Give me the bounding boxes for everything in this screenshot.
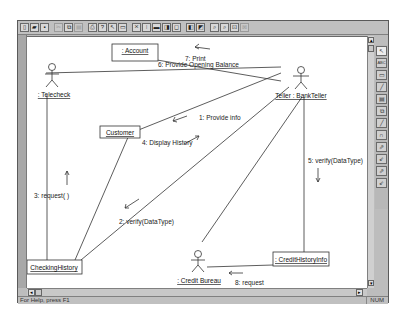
diagram-canvas[interactable]: : Account Customer CheckingHistory : Cre… bbox=[27, 36, 367, 289]
help-icon[interactable]: ? bbox=[98, 23, 107, 32]
new-file-icon[interactable]: ▯ bbox=[20, 23, 29, 32]
object-account[interactable]: : Account bbox=[112, 44, 158, 61]
class-instance-tool-icon[interactable]: ⧉ bbox=[376, 106, 387, 116]
message-arrow-2 bbox=[125, 199, 139, 208]
context-help-icon[interactable]: ↖ bbox=[108, 23, 117, 32]
collaboration-diagram: : Account Customer CheckingHistory : Cre… bbox=[27, 37, 367, 289]
svg-text:CheckingHistory: CheckingHistory bbox=[30, 264, 78, 272]
vertical-scrollbar[interactable]: ▴ ▾ bbox=[367, 36, 374, 288]
scroll-left-arrow-icon[interactable]: ◂ bbox=[28, 289, 35, 296]
message-label-5: 5: verify(DataType) bbox=[308, 157, 363, 165]
vertical-scroll-thumb[interactable] bbox=[368, 45, 374, 52]
object-checking-history[interactable]: CheckingHistory bbox=[27, 260, 82, 274]
object-link-tool-icon[interactable]: ╱ bbox=[376, 118, 387, 128]
message-label-1: 1: Provide info bbox=[199, 114, 241, 121]
cut-icon[interactable]: ✂ bbox=[54, 23, 63, 32]
svg-text:: CreditHistoryInfo: : CreditHistoryInfo bbox=[275, 256, 327, 264]
tool-palette: ↖ABC▭╱▤⧉╱∩⇗⇙⇗⇙ bbox=[375, 45, 388, 209]
next-diagram-icon[interactable]: ◩ bbox=[196, 23, 205, 32]
link-customer-checkinghistory bbox=[75, 135, 129, 260]
component-icon[interactable]: ◨ bbox=[162, 23, 171, 32]
svg-text:: Account: : Account bbox=[122, 47, 149, 54]
scroll-down-arrow-icon[interactable]: ▾ bbox=[368, 280, 374, 286]
paste-icon[interactable]: ▤ bbox=[74, 23, 83, 32]
scroll-right-arrow-icon[interactable]: ▸ bbox=[356, 289, 363, 296]
status-num-indicator: NUM bbox=[366, 297, 384, 304]
zoom-out-icon[interactable]: ⌕ bbox=[220, 23, 229, 32]
prev-diagram-icon[interactable]: ◧ bbox=[186, 23, 195, 32]
message-label-3: 3: request( ) bbox=[34, 192, 69, 200]
actor-telecheck-label: : Telecheck bbox=[38, 91, 71, 98]
message-label-2: 2: verify(DataType) bbox=[119, 218, 174, 226]
scroll-up-arrow-icon[interactable]: ▴ bbox=[368, 37, 374, 43]
browse-icon[interactable]: ▭ bbox=[118, 23, 127, 32]
actor-credit-bureau-label: : Credit Bureau bbox=[177, 277, 221, 284]
selection-tool-icon[interactable]: ↖ bbox=[376, 46, 387, 56]
link-customer-teller bbox=[136, 73, 281, 131]
message-label-6: 6: Provide Opening Balance bbox=[158, 61, 239, 69]
link-message-tool-icon[interactable]: ⇗ bbox=[376, 142, 387, 152]
object-customer[interactable]: Customer bbox=[100, 126, 140, 138]
copy-icon[interactable]: ⧉ bbox=[64, 23, 73, 32]
data-flow-tool-icon[interactable]: ⇗ bbox=[376, 166, 387, 176]
reverse-link-message-tool-icon[interactable]: ⇙ bbox=[376, 154, 387, 164]
svg-text:Customer: Customer bbox=[106, 129, 135, 136]
print-icon[interactable]: ⎙ bbox=[88, 23, 97, 32]
actor-credit-bureau[interactable] bbox=[191, 251, 205, 273]
status-help-text: For Help, press F1 bbox=[20, 297, 70, 304]
anchor-note-tool-icon[interactable]: ╱ bbox=[376, 82, 387, 92]
application-window: ▯▰▪✂⧉▤⎙?↖▭⨯⁞▬◨◻◧◩⌕⌕⊡⊠ bbox=[17, 20, 389, 303]
fit-window-icon[interactable]: ⊡ bbox=[230, 23, 239, 32]
window-left-frame bbox=[18, 35, 27, 288]
note-tool-icon[interactable]: ▭ bbox=[376, 70, 387, 80]
save-icon[interactable]: ▪ bbox=[40, 23, 49, 32]
message-label-8: 8: request bbox=[235, 279, 264, 287]
sequence-icon[interactable]: ⁞ bbox=[142, 23, 151, 32]
reverse-data-flow-tool-icon[interactable]: ⇙ bbox=[376, 178, 387, 188]
link-credithistoryinfo-creditbureau bbox=[207, 265, 273, 267]
undo-fit-icon[interactable]: ⊠ bbox=[240, 23, 249, 32]
horizontal-scroll-thumb[interactable] bbox=[35, 289, 42, 296]
object-credit-history-info[interactable]: : CreditHistoryInfo bbox=[273, 252, 329, 266]
message-arrow-1 bbox=[173, 116, 187, 121]
object-tool-icon[interactable]: ▤ bbox=[376, 94, 387, 104]
actor-teller[interactable] bbox=[293, 67, 309, 90]
message-label-4: 4: Display History bbox=[142, 139, 193, 147]
actor-teller-label: Teller : BankTeller bbox=[275, 92, 327, 99]
open-file-icon[interactable]: ▰ bbox=[30, 23, 39, 32]
actor-telecheck[interactable] bbox=[45, 64, 59, 88]
deployment-icon[interactable]: ◻ bbox=[172, 23, 181, 32]
text-tool-icon[interactable]: ABC bbox=[376, 58, 387, 68]
zoom-in-icon[interactable]: ⌕ bbox=[210, 23, 219, 32]
class-diagram-icon[interactable]: ⨯ bbox=[132, 23, 141, 32]
status-bar: For Help, press F1 NUM bbox=[18, 296, 388, 304]
link-to-self-tool-icon[interactable]: ∩ bbox=[376, 130, 387, 140]
toolbar: ▯▰▪✂⧉▤⎙?↖▭⨯⁞▬◨◻◧◩⌕⌕⊡⊠ bbox=[18, 21, 388, 35]
collaboration-icon[interactable]: ▬ bbox=[152, 23, 161, 32]
